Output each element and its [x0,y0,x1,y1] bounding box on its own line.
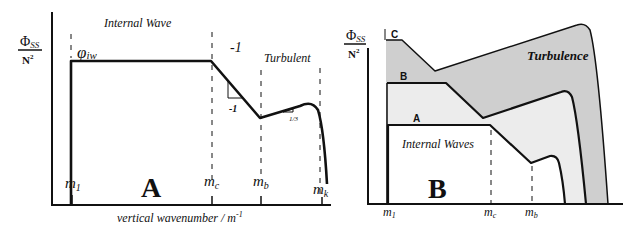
slope-third-label: 1/3 [289,115,298,123]
region-turbulence-label: Turbulence [527,48,589,63]
region-turbulent-label: Turbulent [264,51,311,65]
spectrum-diagram: ΦSS N2 Internal Wave Turbulent φiw -1 -1… [0,0,640,231]
panel-a-letter: A [141,172,162,203]
panel-b-y-label-den: N2 [348,47,360,60]
panel-a: ΦSS N2 Internal Wave Turbulent φiw -1 -1… [18,12,331,225]
region-internal-wave-label: Internal Wave [103,16,172,30]
panel-b-letter: B [428,173,447,204]
tick-b-m1: m1 [383,205,396,220]
tick-mc: mc [204,173,220,191]
panel-a-y-label-num: ΦSS [20,34,40,50]
panel-a-y-label-den: N2 [22,53,34,66]
curve-c-label: C [391,29,398,40]
phi-iw-label: φiw [77,43,97,62]
slope-triangle-label: -1 [229,103,237,114]
tick-b-mc: mc [484,205,497,220]
panel-b: ΦSS N2 C B A Internal Waves Turbulence B… [344,24,623,220]
region-internal-waves-label: Internal Waves [401,137,474,151]
slope-top-label: -1 [230,40,242,55]
panel-b-y-label-num: ΦSS [346,28,366,44]
tick-m1: m1 [65,175,81,193]
tick-mb: mb [253,173,269,191]
curve-a-label: A [413,113,420,124]
panel-a-spectrum-curve [71,61,327,205]
curve-b-label: B [400,71,407,82]
tick-b-mb: mb [525,205,538,220]
x-axis-label: vertical wavenumber / m-1 [117,210,243,225]
